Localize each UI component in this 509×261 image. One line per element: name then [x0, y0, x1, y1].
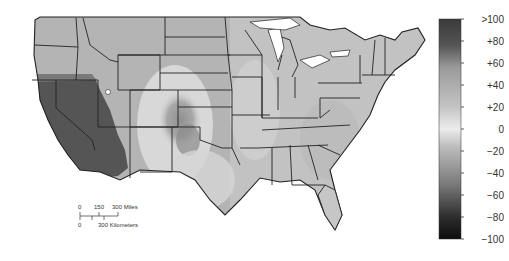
- colorbar: [439, 19, 461, 239]
- map-fill: [0, 0, 430, 261]
- colorbar-label: −100: [468, 234, 504, 245]
- great-salt-lake: [106, 90, 111, 95]
- colorbar-label: +60: [468, 58, 504, 69]
- scale-km-300: 300 Kilometers: [98, 222, 138, 228]
- scale-miles-300: 300 Miles: [112, 204, 138, 210]
- colorbar-label: +80: [468, 36, 504, 47]
- scale-miles-150: 150: [94, 204, 104, 210]
- colorbar-label: −80: [468, 212, 504, 223]
- colorbar-label: >100: [468, 14, 504, 25]
- colorbar-label: +20: [468, 102, 504, 113]
- colorbar-label: −20: [468, 146, 504, 157]
- us-map: [0, 0, 509, 261]
- colorbar-label: −40: [468, 168, 504, 179]
- scale-km-0: 0: [78, 222, 81, 228]
- colorbar-label: 0: [468, 124, 504, 135]
- colorbar-label: +40: [468, 80, 504, 91]
- scale-miles-0: 0: [78, 204, 81, 210]
- scale-bar: [80, 212, 118, 220]
- colorbar-label: −60: [468, 190, 504, 201]
- colorbar-ticks: [461, 19, 464, 239]
